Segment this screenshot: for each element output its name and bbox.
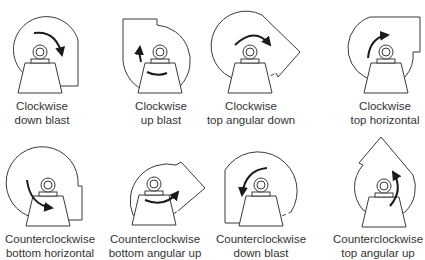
discharge-text: down blast [206,246,316,260]
fan-cw-down-blast [13,17,78,93]
fan-label: Clockwise top horizontal [330,99,425,127]
rotation-arrow-icon [140,47,141,62]
rotation-text: Counterclockwise [100,232,210,246]
fan-label: Clockwise top angular down [196,99,306,127]
rotation-text: Counterclockwise [323,232,425,246]
rotation-arrow-icon [235,36,270,46]
fan-label: Counterclockwise bottom horizontal [0,232,105,260]
fan-label: Counterclockwise top angular up [323,232,425,260]
fan-cw-top-angular-down [211,11,300,93]
rotation-text: Counterclockwise [0,232,105,246]
rotation-text: Counterclockwise [206,232,316,246]
discharge-text: down blast [0,113,97,127]
discharge-text: top horizontal [330,113,425,127]
rotation-text: Clockwise [0,99,97,113]
discharge-text: bottom horizontal [0,246,105,260]
fan-label: Counterclockwise down blast [206,232,316,260]
fan-ccw-top-angular-up [354,137,415,227]
fan-arrangements-diagram [0,0,425,260]
fan-cw-top-horizontal [348,17,420,93]
fan-cw-up-blast [123,19,190,93]
rotation-text: Clockwise [330,99,425,113]
fan-label: Counterclockwise bottom angular up [100,232,210,260]
fan-ccw-bottom-angular-up [130,162,205,225]
fan-ccw-bottom-horizontal [6,147,82,226]
discharge-text: top angular up [323,246,425,260]
discharge-text: bottom angular up [100,246,210,260]
discharge-text: top angular down [196,113,306,127]
fan-ccw-down-blast [225,152,297,226]
rotation-text: Clockwise [196,99,306,113]
fan-label: Clockwise down blast [0,99,97,127]
